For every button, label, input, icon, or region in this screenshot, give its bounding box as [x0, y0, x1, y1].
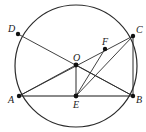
point-a — [17, 94, 21, 98]
point-label-d: D — [8, 24, 15, 34]
point-label-a: A — [8, 95, 14, 105]
point-c — [131, 34, 135, 38]
geometry-figure: DCFOAEB — [0, 0, 146, 132]
point-label-f: F — [102, 37, 108, 47]
point-o — [74, 63, 79, 68]
point-label-o: O — [73, 53, 80, 63]
point-label-e: E — [73, 100, 79, 110]
point-label-c: C — [136, 25, 143, 35]
point-e — [74, 94, 79, 99]
segment-o-b — [76, 65, 133, 96]
figure-canvas — [0, 0, 146, 132]
point-d — [16, 32, 20, 36]
point-label-b: B — [136, 95, 142, 105]
point-f — [103, 47, 107, 51]
point-b — [131, 94, 135, 98]
segment-a-o — [19, 65, 76, 96]
